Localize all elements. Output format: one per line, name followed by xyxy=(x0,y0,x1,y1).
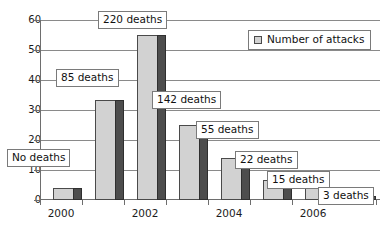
x-axis-tick-5 xyxy=(250,200,251,205)
x-axis-tick-6 xyxy=(292,200,293,205)
callout-2001-deaths: 85 deaths xyxy=(56,69,119,87)
bar-side xyxy=(115,100,124,200)
x-axis-tick-8 xyxy=(376,200,377,205)
x-axis-label-2002: 2002 xyxy=(115,207,175,219)
bar-2002 xyxy=(137,35,166,200)
x-axis-label-2004: 2004 xyxy=(199,207,259,219)
x-axis-tick-0 xyxy=(40,200,41,205)
bar-2000 xyxy=(53,188,82,200)
callout-2005-deaths: 22 deaths xyxy=(235,151,298,169)
bar-chart: 60 50 40 30 20 10 0 xyxy=(0,0,390,238)
bar-side xyxy=(73,188,82,200)
callout-2004-deaths: 55 deaths xyxy=(196,121,259,139)
x-axis-label-2000: 2000 xyxy=(31,207,91,219)
callout-2007-deaths: 3 deaths xyxy=(318,187,374,205)
bar-2001 xyxy=(95,100,124,200)
legend-swatch-icon xyxy=(254,36,262,44)
bar-side xyxy=(157,35,166,200)
x-axis-label-2006: 2006 xyxy=(283,207,343,219)
x-axis-tick-2 xyxy=(124,200,125,205)
callout-2002-deaths: 220 deaths xyxy=(98,11,167,29)
x-axis-tick-4 xyxy=(208,200,209,205)
legend-label: Number of attacks xyxy=(267,34,364,45)
callout-2003-deaths: 142 deaths xyxy=(152,91,221,109)
x-axis-tick-3 xyxy=(166,200,167,205)
callout-2000-deaths: No deaths xyxy=(7,149,70,167)
legend: Number of attacks xyxy=(248,30,371,50)
x-axis-tick-1 xyxy=(82,200,83,205)
